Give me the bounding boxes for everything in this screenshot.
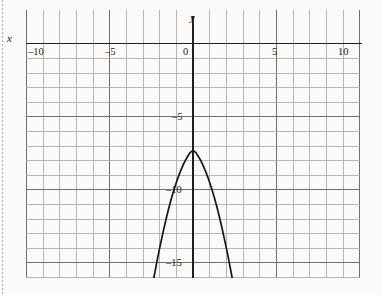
x-tick-label-10: 10 (338, 47, 349, 58)
graph-figure: x y –10 –5 0 5 10 –5 –10 –15 (0, 0, 382, 295)
x-axis-label: x (7, 33, 12, 44)
y-tick-label-neg15: –15 (166, 258, 182, 269)
coordinate-plane-plot (0, 0, 382, 295)
y-tick-label-neg10: –10 (166, 185, 182, 196)
y-axis-label: y (190, 12, 195, 23)
x-tick-label-neg5: –5 (105, 47, 116, 58)
x-tick-label-neg10: –10 (28, 47, 44, 58)
x-tick-label-zero: 0 (183, 47, 188, 58)
x-tick-label-5: 5 (272, 47, 277, 58)
y-tick-label-neg5: –5 (172, 112, 183, 123)
